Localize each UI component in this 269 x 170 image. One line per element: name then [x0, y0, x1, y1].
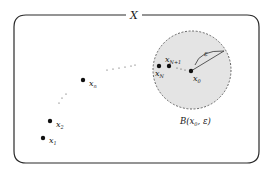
radius-label: ε — [204, 50, 208, 58]
point-x0 — [189, 69, 193, 73]
space-label: X — [129, 9, 139, 22]
point-xn — [81, 78, 85, 82]
label-x2: x2 — [56, 120, 64, 130]
ball-label: B(x0, ε) — [179, 116, 211, 127]
point-x2 — [48, 119, 52, 123]
diagram-canvas: X ε x1 x2 xn xN — [0, 0, 269, 170]
metric-space-diagram: X ε x1 x2 xn xN — [0, 0, 269, 170]
point-xN — [157, 64, 161, 68]
point-x1 — [41, 136, 45, 140]
label-xn: xn — [89, 79, 97, 89]
label-x1: x1 — [49, 136, 57, 146]
